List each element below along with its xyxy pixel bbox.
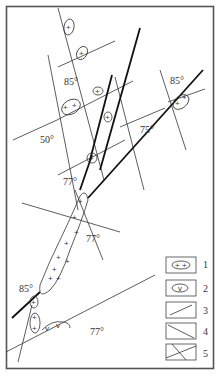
legend: + + 1 v 2 3 4 5 (166, 257, 208, 360)
svg-text:77°: 77° (63, 176, 77, 187)
svg-text:75°: 75° (140, 124, 154, 135)
svg-text:+: + (48, 274, 53, 283)
svg-text:v: v (56, 321, 60, 330)
svg-text:+: + (72, 101, 77, 110)
svg-text:+: + (79, 49, 84, 58)
svg-text:+: + (31, 298, 36, 307)
svg-text:3: 3 (203, 305, 208, 316)
granite-symbols: + + + + + + + + + + + + + + + + + + + + … (31, 23, 187, 333)
svg-text:+: + (66, 23, 71, 32)
svg-text:4: 4 (203, 326, 208, 337)
svg-text:+: + (95, 87, 100, 96)
svg-text:+: + (32, 324, 37, 333)
svg-text:v: v (178, 284, 182, 293)
svg-text:+: + (175, 99, 180, 108)
svg-text:85°: 85° (64, 76, 78, 87)
svg-text:+: + (89, 154, 94, 163)
svg-text:+: + (64, 239, 69, 248)
svg-text:+: + (78, 197, 83, 206)
svg-text:+: + (105, 113, 110, 122)
svg-text:+: + (72, 213, 77, 222)
svg-text:+: + (52, 265, 57, 274)
svg-text:+: + (56, 274, 61, 283)
svg-text:+: + (65, 257, 70, 266)
svg-text:+: + (74, 228, 79, 237)
svg-text:+: + (63, 103, 68, 112)
svg-text:77°: 77° (86, 233, 100, 244)
svg-text:1: 1 (203, 259, 208, 270)
svg-text:5: 5 (203, 348, 208, 359)
svg-text:+: + (56, 253, 61, 262)
svg-text:+ +: + + (175, 261, 187, 270)
major-faults (12, 28, 203, 318)
granite-bodies (30, 18, 192, 333)
svg-text:77°: 77° (90, 326, 104, 337)
svg-text:+: + (32, 313, 37, 322)
svg-text:50°: 50° (40, 134, 54, 145)
svg-text:85°: 85° (19, 283, 33, 294)
geological-map: + + + + + + + + + + + + + + + + + + + + … (0, 0, 219, 377)
svg-text:85°: 85° (170, 75, 184, 86)
svg-text:2: 2 (203, 283, 208, 294)
svg-text:v: v (45, 324, 49, 333)
svg-text:+: + (182, 93, 187, 102)
